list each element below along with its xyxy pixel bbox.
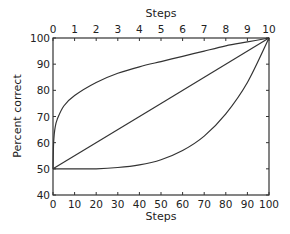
x-tick-label: 0 bbox=[50, 198, 57, 210]
x-tick-label: 80 bbox=[219, 198, 232, 210]
top-tick-label: 6 bbox=[179, 23, 186, 35]
top-tick-label: 4 bbox=[136, 23, 143, 35]
x-tick-label: 60 bbox=[176, 198, 189, 210]
plot-axes: 0102030405060708090100012345678910405060… bbox=[30, 23, 279, 210]
x-tick-label: 100 bbox=[259, 198, 279, 210]
x-tick-label: 40 bbox=[133, 198, 146, 210]
x-tick-label: 10 bbox=[68, 198, 81, 210]
x-tick-label: 20 bbox=[90, 198, 103, 210]
chart-series bbox=[53, 38, 269, 169]
top-tick-label: 7 bbox=[201, 23, 208, 35]
top-tick-label: 10 bbox=[262, 23, 275, 35]
y-axis-label: Percent correct bbox=[11, 74, 24, 158]
y-tick-label: 100 bbox=[30, 32, 50, 44]
y-tick-label: 90 bbox=[37, 58, 50, 70]
top-tick-label: 0 bbox=[50, 23, 57, 35]
x-tick-label: 30 bbox=[111, 198, 124, 210]
top-tick-label: 3 bbox=[114, 23, 121, 35]
x-tick-label: 50 bbox=[154, 198, 167, 210]
y-tick-label: 60 bbox=[37, 137, 50, 149]
line-chart: 0102030405060708090100012345678910405060… bbox=[0, 0, 290, 234]
top-tick-label: 1 bbox=[71, 23, 78, 35]
x-axis-label: Steps bbox=[146, 210, 177, 223]
top-tick-label: 8 bbox=[222, 23, 229, 35]
y-tick-label: 50 bbox=[37, 163, 50, 175]
x-tick-label: 90 bbox=[241, 198, 254, 210]
y-tick-label: 40 bbox=[37, 189, 50, 201]
top-tick-label: 9 bbox=[244, 23, 251, 35]
top-axis-label: Steps bbox=[146, 7, 177, 20]
series-line-linear bbox=[53, 38, 269, 169]
y-tick-label: 70 bbox=[37, 111, 50, 123]
x-tick-label: 70 bbox=[198, 198, 211, 210]
top-tick-label: 2 bbox=[93, 23, 100, 35]
top-tick-label: 5 bbox=[158, 23, 165, 35]
y-tick-label: 80 bbox=[37, 84, 50, 96]
